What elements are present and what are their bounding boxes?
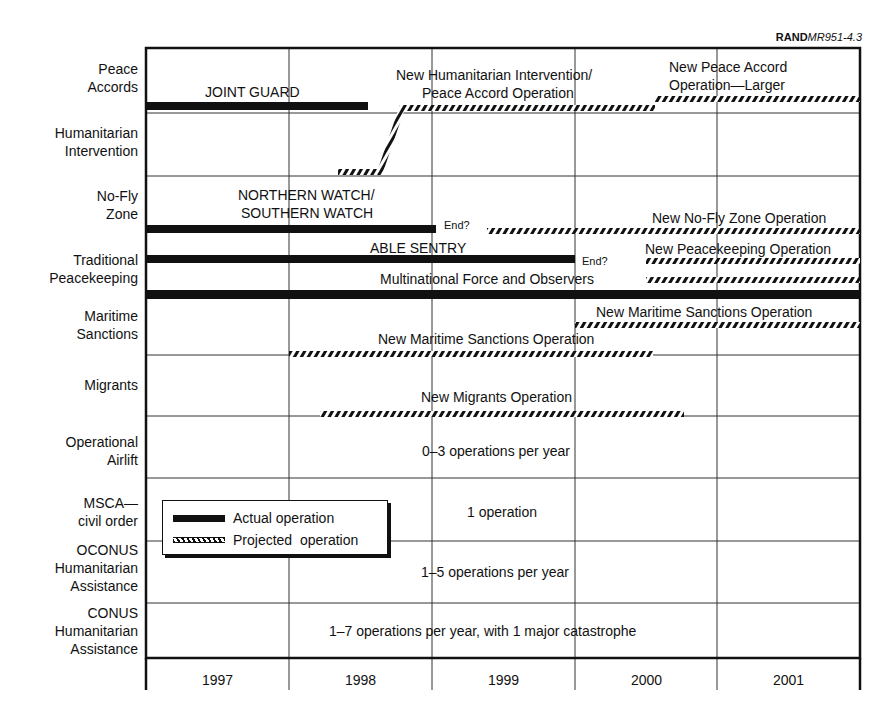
row-label-oconus: OCONUSHumanitarianAssistance: [55, 541, 138, 595]
label-new-ms-2: New Maritime Sanctions Operation: [378, 330, 594, 348]
label-new-ms-1: New Maritime Sanctions Operation: [596, 303, 812, 321]
x-tick-1998: 1998: [289, 672, 432, 688]
label-new-migrants: New Migrants Operation: [421, 388, 572, 406]
label-northern-watch: NORTHERN WATCH/: [238, 186, 375, 204]
solid-bar-icon: [173, 515, 225, 522]
x-tick-1997: 1997: [146, 672, 289, 688]
label-end-1: End?: [444, 216, 470, 234]
bar-new-pk-1: [646, 258, 860, 264]
label-conus: 1–7 operations per year, with 1 major ca…: [329, 622, 636, 640]
bar-mfo: [146, 290, 860, 299]
row-label-conus: CONUSHumanitarianAssistance: [55, 604, 138, 658]
label-mfo: Multinational Force and Observers: [380, 270, 594, 288]
label-new-pa-1: New Peace Accord: [669, 58, 787, 76]
bar-joint-guard: [146, 102, 368, 110]
label-able-sentry: ABLE SENTRY: [370, 239, 466, 257]
legend-item-actual: Actual operation: [173, 510, 334, 526]
legend-item-projected: Projected operation: [173, 532, 358, 548]
x-tick-2001: 2001: [717, 672, 860, 688]
bar-able-sentry: [146, 255, 575, 263]
bar-new-pk-2: [646, 277, 860, 283]
label-new-pk: New Peacekeeping Operation: [645, 240, 831, 258]
bar-new-ms-2: [289, 351, 653, 357]
label-oconus: 1–5 operations per year: [421, 563, 569, 581]
row-label-traditional-peacekeeping: TraditionalPeacekeeping: [49, 251, 138, 287]
bar-northern-southern-watch: [146, 225, 436, 233]
label-southern-watch: SOUTHERN WATCH: [241, 204, 373, 222]
label-joint-guard: JOINT GUARD: [205, 83, 300, 101]
label-new-nfz: New No-Fly Zone Operation: [652, 209, 826, 227]
bar-new-migrants: [320, 411, 684, 417]
x-tick-1999: 1999: [432, 672, 575, 688]
label-new-hi-1: New Humanitarian Intervention/: [396, 66, 592, 84]
label-airlift: 0–3 operations per year: [422, 442, 570, 460]
hatched-bar-icon: [173, 537, 225, 543]
row-label-peace-accords: PeaceAccords: [87, 60, 138, 96]
label-end-2: End?: [582, 252, 608, 270]
bar-new-pa-larger: [655, 96, 860, 102]
label-new-pa-2: Operation—Larger: [669, 76, 785, 94]
label-new-hi-2: Peace Accord Operation: [422, 84, 574, 102]
bar-new-hi-pa: [338, 105, 655, 175]
row-label-no-fly-zone: No-FlyZone: [97, 187, 138, 223]
row-label-maritime-sanctions: MaritimeSanctions: [77, 307, 138, 343]
row-label-migrants: Migrants: [84, 376, 138, 394]
x-tick-2000: 2000: [575, 672, 718, 688]
label-msca: 1 operation: [467, 503, 537, 521]
row-label-humanitarian-intervention: HumanitarianIntervention: [55, 124, 138, 160]
row-label-msca: MSCA—civil order: [78, 494, 138, 530]
bar-new-ms-1: [575, 322, 860, 328]
bar-new-nfz: [487, 228, 860, 234]
row-label-operational-airlift: OperationalAirlift: [66, 433, 138, 469]
legend: Actual operation Projected operation: [162, 500, 388, 555]
